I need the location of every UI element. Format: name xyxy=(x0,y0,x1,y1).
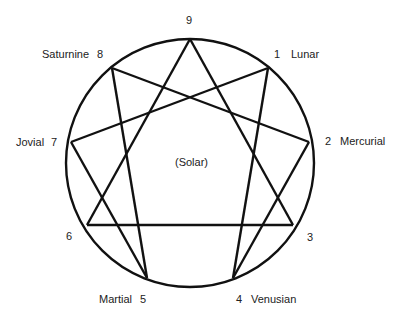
point-1-name: Lunar xyxy=(291,48,319,60)
hexad-1-4-2-8-5-7 xyxy=(71,68,309,278)
point-7-number: 7 xyxy=(51,136,57,148)
point-4-number: 4 xyxy=(236,293,242,305)
point-2-name: Mercurial xyxy=(340,135,385,147)
point-9-label: 9 xyxy=(186,14,192,26)
point-8-name: Saturnine xyxy=(42,48,89,60)
point-5-name: Martial xyxy=(99,293,132,305)
point-4-name: Venusian xyxy=(251,293,296,305)
center-label-solar: (Solar) xyxy=(175,156,208,168)
point-5-number: 5 xyxy=(140,293,146,305)
point-3-label: 3 xyxy=(307,231,313,243)
point-8-number: 8 xyxy=(97,48,103,60)
triangle-9-3-6 xyxy=(87,39,293,225)
point-6-label: 6 xyxy=(66,230,72,242)
point-2-number: 2 xyxy=(325,135,331,147)
point-7-name: Jovial xyxy=(16,136,44,148)
point-1-number: 1 xyxy=(274,48,280,60)
